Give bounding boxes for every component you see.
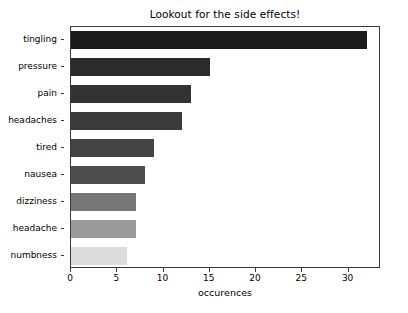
bar-nausea <box>71 166 145 184</box>
y-axis-labels: tinglingpressurepainheadachestirednausea… <box>0 26 64 268</box>
bar-row <box>71 108 182 135</box>
y-tick-label-dizziness: dizziness <box>16 187 57 214</box>
y-tick-label-headaches: headaches <box>8 107 57 134</box>
y-tick-mark <box>61 39 65 40</box>
bar-pain <box>71 85 191 103</box>
bar-row <box>71 135 154 162</box>
plot-area <box>70 26 380 268</box>
bar-row <box>71 54 210 81</box>
bar-numbness <box>71 247 127 265</box>
x-axis: 051015202530 <box>70 268 380 288</box>
x-tick-mark <box>301 268 302 272</box>
chart-title: Lookout for the side effects! <box>70 8 380 20</box>
x-axis-label: occurences <box>70 287 380 298</box>
x-tick-label-5: 5 <box>113 273 119 283</box>
x-tick-mark <box>116 268 117 272</box>
y-tick-label-nausea: nausea <box>24 160 57 187</box>
bar-tingling <box>71 31 367 49</box>
bar-row <box>71 215 136 242</box>
x-tick-mark <box>163 268 164 272</box>
x-tick-mark <box>209 268 210 272</box>
x-tick-label-25: 25 <box>296 273 307 283</box>
x-tick-mark <box>348 268 349 272</box>
y-tick-mark <box>61 255 65 256</box>
y-tick-mark <box>61 201 65 202</box>
x-tick-mark <box>255 268 256 272</box>
y-tick-label-pressure: pressure <box>18 53 57 80</box>
bar-pressure <box>71 58 210 76</box>
y-tick-mark <box>61 120 65 121</box>
y-tick-mark <box>61 93 65 94</box>
x-tick-label-0: 0 <box>67 273 73 283</box>
y-tick-label-tingling: tingling <box>23 26 57 53</box>
x-tick-label-20: 20 <box>249 273 260 283</box>
bar-headache <box>71 220 136 238</box>
bar-row <box>71 188 136 215</box>
x-tick-label-15: 15 <box>203 273 214 283</box>
y-tick-label-tired: tired <box>36 134 57 161</box>
bar-dizziness <box>71 193 136 211</box>
y-tick-mark <box>61 228 65 229</box>
bar-tired <box>71 139 154 157</box>
y-tick-mark <box>61 174 65 175</box>
bars-layer <box>71 27 379 267</box>
bar-headaches <box>71 112 182 130</box>
bar-row <box>71 27 367 54</box>
bar-row <box>71 161 145 188</box>
y-tick-mark <box>61 147 65 148</box>
x-tick-label-10: 10 <box>157 273 168 283</box>
y-tick-mark <box>61 66 65 67</box>
y-tick-label-numbness: numbness <box>10 241 57 268</box>
x-tick-label-30: 30 <box>342 273 353 283</box>
bar-row <box>71 242 127 269</box>
chart-figure: Lookout for the side effects! tinglingpr… <box>0 0 408 313</box>
bar-row <box>71 81 191 108</box>
y-tick-label-pain: pain <box>38 80 57 107</box>
x-tick-mark <box>70 268 71 272</box>
y-tick-label-headache: headache <box>13 214 57 241</box>
